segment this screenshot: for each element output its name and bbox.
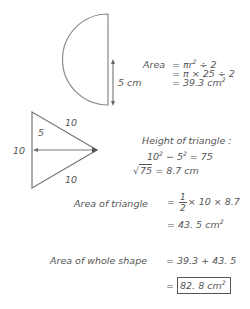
whole-area-answer-line: = 82. 8 cm2	[166, 281, 231, 291]
triangle-side-top-label: 10	[65, 118, 77, 128]
radius-arrow	[111, 59, 115, 106]
sqrt-line: √75 = 8.7 cm	[133, 166, 199, 176]
triangle-area-result: = 43. 5 cm2	[167, 220, 223, 230]
semicircle-area-label: Area	[143, 60, 165, 70]
pythagoras-line: 102 − 52 = 75	[147, 152, 213, 162]
half-base-label: 5	[38, 128, 44, 138]
semicircle-shape	[63, 14, 108, 105]
whole-area-sum: = 39.3 + 43. 5	[166, 256, 236, 266]
fraction-one-half: 1 2	[179, 192, 187, 213]
height-heading: Height of triangle :	[142, 136, 231, 146]
triangle-area-label: Area of triangle	[74, 199, 148, 209]
height-arrow	[33, 147, 98, 153]
triangle-area-formula: = 1 2 × 10 × 8.7	[167, 192, 240, 213]
triangle-side-left-label: 10	[13, 146, 25, 156]
final-answer-box: 82. 8 cm2	[177, 277, 231, 294]
whole-area-label: Area of whole shape	[50, 256, 147, 266]
radius-label: 5 cm	[118, 78, 142, 88]
triangle-side-bottom-label: 10	[65, 175, 77, 185]
semicircle-area-line3: = 39.3 cm2	[172, 78, 225, 88]
